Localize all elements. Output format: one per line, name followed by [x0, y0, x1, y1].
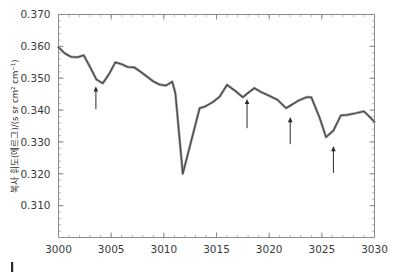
y-tick-label: 0.320 — [20, 168, 50, 180]
radiance-spectrum-chart: 3000300530103015302030253030 0.3100.3200… — [0, 0, 393, 278]
y-axis-title: 복사 휘도(에르그)/(s sr cm² cm⁻¹) — [10, 59, 20, 192]
x-tick-label: 3015 — [203, 243, 230, 255]
y-axis-title-text: 복사 휘도(에르그)/(s sr cm² cm⁻¹) — [10, 59, 20, 192]
x-tick-label: 3000 — [45, 243, 72, 255]
x-tick-label: 3025 — [308, 243, 335, 255]
bottom-caret-marker — [11, 262, 13, 272]
y-tick-label: 0.330 — [20, 136, 50, 148]
x-tick-label: 3020 — [256, 243, 283, 255]
x-tick-label: 3010 — [150, 243, 177, 255]
y-tick-label: 0.310 — [20, 199, 50, 211]
y-tick-label: 0.360 — [20, 40, 50, 52]
x-tick-label: 3030 — [361, 243, 388, 255]
y-tick-label: 0.340 — [20, 104, 50, 116]
y-tick-label: 0.350 — [20, 72, 50, 84]
y-tick-label: 0.370 — [20, 8, 50, 20]
x-tick-label: 3005 — [98, 243, 125, 255]
